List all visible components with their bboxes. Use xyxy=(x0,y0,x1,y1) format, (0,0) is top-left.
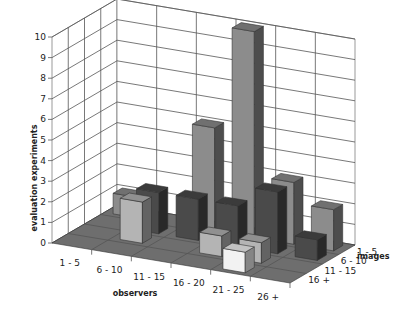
z-tick-label: 10 xyxy=(35,32,47,42)
x-tick-label: 16 - 20 xyxy=(173,278,205,288)
bar xyxy=(120,193,151,243)
z-tick-label: 6 xyxy=(40,114,46,124)
x-tick-label: 21 - 25 xyxy=(213,285,245,295)
z-tick-label: 2 xyxy=(40,197,46,207)
bar-chart-3d: 012345678910 1 - 56 - 1011 - 1516 - 2021… xyxy=(0,0,398,313)
z-tick-label: 9 xyxy=(40,53,46,63)
x-axis-title: observers xyxy=(113,289,158,298)
z-tick-label: 5 xyxy=(40,135,46,145)
x-tick-label: 11 - 15 xyxy=(133,272,165,282)
z-tick-label: 1 xyxy=(40,217,46,227)
bar-side xyxy=(159,187,168,234)
y-tick-label: 16 + xyxy=(308,275,330,285)
z-axis-title: evaluation experiments xyxy=(30,124,39,231)
bar-front xyxy=(176,196,198,241)
y-tick-label: 11 - 15 xyxy=(324,266,356,276)
bar-side xyxy=(334,204,343,251)
z-tick-label: 3 xyxy=(40,176,46,186)
x-tick-label: 26 + xyxy=(257,292,279,302)
x-tick-label: 1 - 5 xyxy=(60,258,80,268)
bar xyxy=(295,231,326,261)
bar-front xyxy=(295,236,317,260)
bar xyxy=(223,243,254,273)
bar-front xyxy=(120,198,142,243)
z-tick-label: 4 xyxy=(40,156,46,166)
z-tick-label: 7 xyxy=(40,94,46,104)
bar-front xyxy=(200,232,222,256)
x-tick-label: 6 - 10 xyxy=(96,265,122,275)
bar-front xyxy=(223,248,245,272)
z-tick-label: 0 xyxy=(40,238,46,248)
bar-side xyxy=(278,187,287,254)
y-axis-title: images xyxy=(357,252,390,261)
z-tick-label: 8 xyxy=(40,73,46,83)
bar-side xyxy=(142,197,151,244)
